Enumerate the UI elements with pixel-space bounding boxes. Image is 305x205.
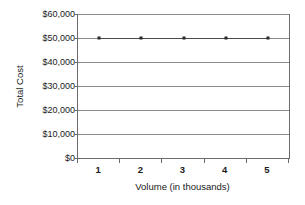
x-axis-tick-label: 2: [128, 164, 152, 176]
x-axis-tick-label: 3: [171, 164, 195, 176]
y-axis-tick-label: $30,000: [22, 81, 75, 91]
gridline: [78, 14, 289, 15]
y-axis-tick-label: $20,000: [22, 105, 75, 115]
x-axis-tick-mark: [204, 159, 205, 163]
y-axis-tick-label: $50,000: [22, 33, 75, 43]
x-axis-tick-mark: [77, 159, 78, 163]
y-axis-tick-mark: [74, 38, 78, 39]
gridline: [78, 38, 289, 39]
y-axis-tick-label: $0: [22, 153, 75, 163]
x-axis-title: Volume (in thousands): [77, 181, 288, 193]
y-axis-tick-mark: [74, 110, 78, 111]
chart-figure: Total Cost $0$10,000$20,000$30,000$40,00…: [0, 0, 305, 205]
y-axis-tick-mark: [74, 86, 78, 87]
x-axis-tick-label: 5: [255, 164, 279, 176]
x-axis-tick-label: 1: [86, 164, 110, 176]
gridline: [78, 86, 289, 87]
x-axis-tick-label-group: 12345: [77, 164, 288, 177]
gridline: [78, 62, 289, 63]
gridline: [78, 110, 289, 111]
y-axis-tick-mark: [74, 62, 78, 63]
y-axis-tick-mark: [74, 14, 78, 15]
plot-area: [77, 14, 290, 159]
y-axis-tick-label: $60,000: [22, 9, 75, 19]
x-axis-tick-mark: [288, 159, 289, 163]
x-axis-tick-label: 4: [213, 164, 237, 176]
y-axis-tick-label: $10,000: [22, 129, 75, 139]
y-axis-tick-label: $40,000: [22, 57, 75, 67]
x-axis-tick-mark: [119, 159, 120, 163]
gridline: [78, 134, 289, 135]
y-axis-tick-label-group: $0$10,000$20,000$30,000$40,000$50,000$60…: [22, 8, 75, 160]
x-axis-tick-mark: [161, 159, 162, 163]
y-axis-tick-mark: [74, 134, 78, 135]
x-axis-tick-mark: [246, 159, 247, 163]
